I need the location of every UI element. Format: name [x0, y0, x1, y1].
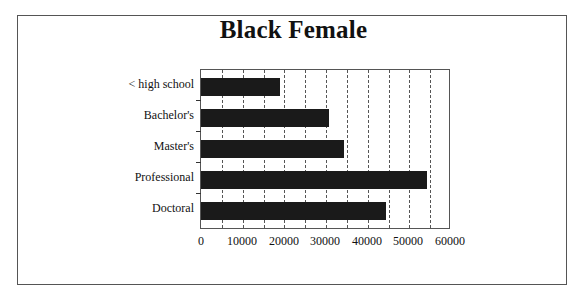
- y-tick: [196, 193, 201, 194]
- y-tick: [196, 162, 201, 163]
- bar-professional: [201, 171, 427, 189]
- category-label: Doctoral: [152, 201, 194, 216]
- x-tick-label: 60000: [435, 234, 465, 249]
- x-tick-label: 0: [198, 234, 204, 249]
- x-tick-label: 20000: [269, 234, 299, 249]
- bar-less-than-high-school: [201, 78, 280, 96]
- bar-doctoral: [201, 202, 386, 220]
- x-tick-label: 40000: [352, 234, 382, 249]
- x-tick-label: 30000: [310, 234, 340, 249]
- chart-title: Black Female: [0, 16, 587, 44]
- x-tick-label: 10000: [227, 234, 257, 249]
- gridline: [409, 70, 410, 228]
- x-tick-label: 50000: [393, 234, 423, 249]
- gridline: [389, 70, 390, 228]
- gridline: [430, 70, 431, 228]
- bar-masters: [201, 140, 344, 158]
- category-label: Master's: [154, 139, 194, 154]
- y-tick: [196, 131, 201, 132]
- category-label: < high school: [129, 77, 194, 92]
- bar-bachelors: [201, 109, 329, 127]
- category-label: Professional: [135, 170, 194, 185]
- plot-area: [200, 69, 450, 229]
- y-tick: [196, 100, 201, 101]
- category-label: Bachelor's: [144, 108, 194, 123]
